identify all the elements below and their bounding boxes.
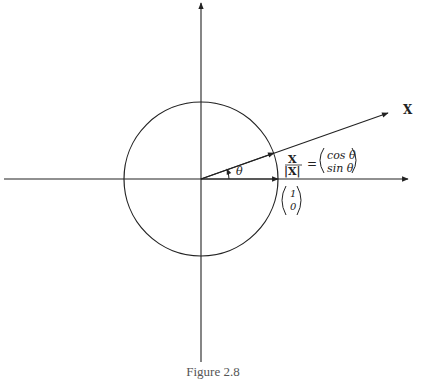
angle-label: θ bbox=[236, 165, 243, 178]
basis-top-entry: 1 bbox=[290, 188, 296, 199]
basis-bottom-entry: 0 bbox=[290, 201, 297, 212]
left-paren bbox=[320, 148, 324, 173]
basis-left-paren bbox=[282, 186, 286, 215]
unit-vector-denominator: |X| bbox=[284, 165, 301, 178]
sin-entry: sin θ bbox=[327, 162, 354, 175]
vector-x-label: X bbox=[403, 103, 413, 117]
basis-right-paren bbox=[297, 186, 301, 215]
figure-caption: Figure 2.8 bbox=[0, 364, 426, 380]
equals-sign: = bbox=[307, 157, 317, 171]
cos-entry: cos θ bbox=[327, 149, 356, 162]
angle-arc-icon bbox=[227, 169, 229, 179]
